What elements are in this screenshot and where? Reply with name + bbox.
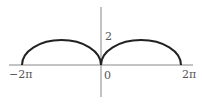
- right-arch: [101, 40, 181, 65]
- plot-area: [0, 0, 202, 106]
- x-tick-neg-2pi: −2π: [9, 69, 32, 80]
- x-tick-zero: 0: [104, 70, 111, 81]
- y-tick-2: 2: [105, 31, 112, 42]
- x-tick-2pi: 2π: [182, 69, 196, 80]
- left-arch: [22, 40, 101, 65]
